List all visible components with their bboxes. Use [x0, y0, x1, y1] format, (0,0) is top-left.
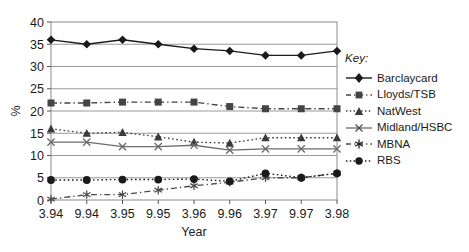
legend-sample-mbna: [345, 136, 373, 152]
legend-sample-barclaycard: [345, 70, 373, 86]
data-point: [297, 174, 305, 182]
x-axis-title: Year: [181, 225, 206, 239]
x-axis-tick-label: 9.96: [218, 207, 242, 221]
legend-item-natwest[interactable]: NatWest: [345, 103, 469, 120]
legend-item-mbna[interactable]: MBNA: [345, 136, 469, 153]
legend-sample-rbs: [345, 153, 373, 169]
x-axis-tick-label: 3.96: [182, 207, 206, 221]
x-axis-tick-label: 3.95: [110, 207, 134, 221]
y-axis-tick-label: 40: [30, 16, 44, 30]
data-point: [226, 103, 233, 110]
x-axis-tick-label: 3.97: [253, 207, 277, 221]
data-point: [83, 99, 90, 106]
legend-sample-lloyds-tsb: [345, 87, 373, 103]
data-point: [119, 176, 127, 184]
legend-item-lloyds-tsb[interactable]: Lloyds/TSB: [345, 87, 469, 104]
data-point: [191, 99, 198, 106]
data-point: [333, 169, 341, 177]
legend-label-barclaycard: Barclaycard: [377, 72, 438, 85]
legend-label-lloyds-tsb: Lloyds/TSB: [377, 88, 436, 101]
data-point: [298, 105, 305, 112]
y-axis-tick-label: 15: [30, 127, 44, 141]
y-axis-tick-label: 35: [30, 38, 44, 52]
y-axis-title: %: [9, 105, 23, 116]
data-point: [262, 105, 269, 112]
data-point: [190, 175, 198, 183]
legend-label-mbna: MBNA: [377, 138, 410, 151]
y-axis-tick-label: 30: [30, 60, 44, 74]
y-axis-tick-label: 0: [37, 194, 44, 208]
legend-label-natwest: NatWest: [377, 105, 421, 118]
legend-label-rbs: RBS: [377, 154, 401, 167]
legend-label-midland-hsbc: Midland/HSBC: [377, 121, 452, 134]
legend-sample-midland-hsbc: [345, 120, 373, 136]
x-axis-tick-label: 9.97: [289, 207, 313, 221]
data-point: [119, 99, 126, 106]
data-point: [226, 177, 234, 185]
data-point: [83, 176, 91, 184]
data-point: [154, 176, 162, 184]
legend-sample-natwest: [345, 103, 373, 119]
legend-title: Key:: [345, 52, 469, 65]
x-axis-tick-label: 3.98: [325, 207, 349, 221]
x-axis-tick-label: 9.95: [146, 207, 170, 221]
y-axis-tick-label: 5: [37, 171, 44, 185]
x-axis-tick-label: 3.94: [39, 207, 63, 221]
data-point: [155, 99, 162, 106]
legend-item-barclaycard[interactable]: Barclaycard: [345, 70, 469, 87]
chart-legend: Key: Barclaycard Lloyds/TSB NatWest Mi: [345, 52, 469, 169]
y-axis-tick-label: 25: [30, 82, 44, 96]
data-point: [48, 99, 55, 106]
y-axis-tick-label: 20: [30, 105, 44, 119]
y-axis-tick-label: 10: [30, 149, 44, 163]
data-point: [47, 176, 55, 184]
data-point: [334, 105, 341, 112]
legend-item-rbs[interactable]: RBS: [345, 153, 469, 170]
data-point: [262, 169, 270, 177]
x-axis-tick-label: 9.94: [75, 207, 99, 221]
legend-item-midland-hsbc[interactable]: Midland/HSBC: [345, 120, 469, 137]
